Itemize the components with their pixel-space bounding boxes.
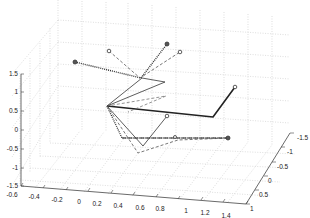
grid [12, 0, 295, 202]
axes [21, 74, 290, 204]
svg-text:0.4: 0.4 [113, 202, 122, 209]
svg-text:0: 0 [77, 198, 81, 205]
svg-text:1.5: 1.5 [9, 70, 18, 77]
svg-text:-1.5: -1.5 [7, 182, 19, 189]
marker [174, 136, 177, 139]
svg-text:-0.4: -0.4 [28, 193, 40, 200]
series-solid-upper [107, 78, 165, 106]
marker [165, 114, 169, 118]
marker [107, 49, 111, 53]
svg-text:1: 1 [14, 88, 18, 95]
series-markers [73, 42, 237, 140]
svg-text:-0.5: -0.5 [7, 145, 19, 152]
svg-text:-0.6: -0.6 [6, 191, 18, 198]
3d-line-plot: 1.5 1 0.5 0 -0.5 -1 -1.5 -0.6 -0.4 -0.2 … [0, 0, 310, 218]
marker [233, 85, 237, 89]
svg-text:1.4: 1.4 [221, 212, 230, 218]
svg-text:-1.5: -1.5 [297, 134, 309, 141]
svg-text:0.5: 0.5 [259, 191, 268, 198]
series-dashed-upper [109, 51, 180, 78]
svg-text:0: 0 [14, 126, 18, 133]
svg-text:-0.5: -0.5 [277, 163, 289, 170]
series-lines [75, 44, 235, 153]
svg-text:0.5: 0.5 [9, 107, 18, 114]
svg-text:-1: -1 [287, 148, 293, 155]
svg-text:0: 0 [268, 177, 272, 184]
svg-text:-1: -1 [12, 164, 18, 171]
svg-text:1: 1 [250, 205, 254, 212]
svg-text:-0.2: -0.2 [51, 196, 63, 203]
z-axis-ticks: 1.5 1 0.5 0 -0.5 -1 -1.5 [7, 70, 24, 189]
marker [165, 42, 169, 46]
svg-text:0.2: 0.2 [92, 200, 101, 207]
marker [178, 50, 182, 54]
marker [73, 60, 77, 64]
svg-text:1.2: 1.2 [200, 209, 209, 216]
svg-text:1: 1 [184, 207, 188, 214]
svg-text:0.8: 0.8 [155, 205, 164, 212]
svg-text:0.6: 0.6 [135, 204, 144, 211]
marker [226, 136, 230, 140]
y-axis-ticks: -1.5 -1 -0.5 0 0.5 1 [246, 133, 309, 212]
x-axis-ticks: -0.6 -0.4 -0.2 0 0.2 0.4 0.6 0.8 1 1.2 1… [6, 183, 248, 218]
